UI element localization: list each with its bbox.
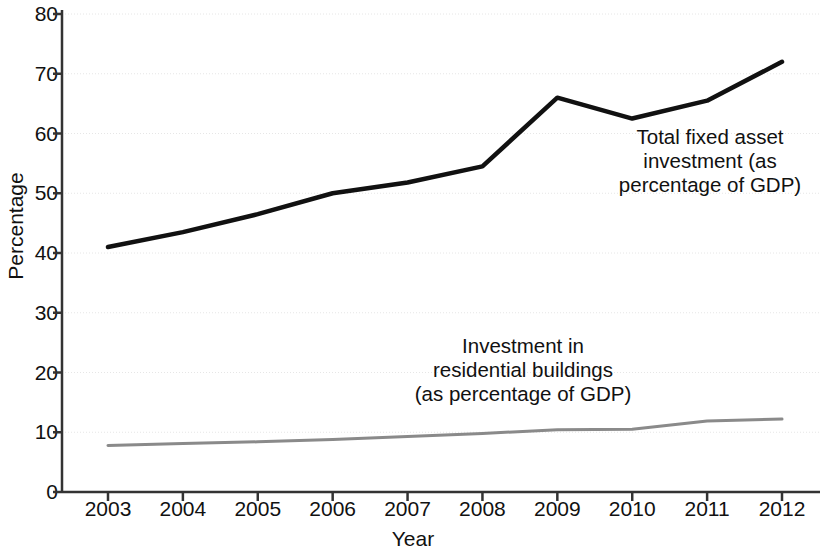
x-axis-ticks (108, 492, 782, 501)
y-axis-ticks (53, 14, 62, 492)
chart-figure: Percentage Year 01020304050607080 200320… (0, 0, 826, 559)
annotation-total-fixed-asset: Total fixed asset investment (as percent… (596, 125, 824, 198)
plot-area (0, 0, 826, 559)
annotation-residential-buildings: Investment in residential buildings (as … (398, 334, 648, 407)
